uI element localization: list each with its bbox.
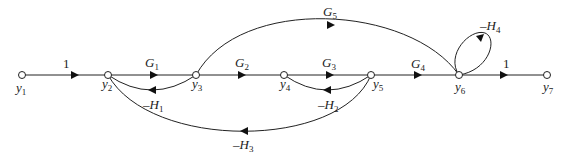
gain-label-g3: G3	[322, 55, 336, 72]
gain-label-minus-h4: –H4	[479, 18, 501, 35]
arrow-icon	[326, 71, 334, 79]
arrow-icon	[476, 34, 484, 42]
gain-label-g5: G5	[323, 4, 337, 21]
gain-label-minus-h2: –H2	[317, 97, 338, 114]
gain-label-g4: G4	[411, 56, 425, 73]
gain-label-1-out: 1	[503, 56, 510, 71]
arrow-icon	[323, 86, 331, 94]
arrow-icon	[240, 127, 248, 135]
node-y7	[544, 72, 551, 79]
arrow-icon	[148, 86, 156, 94]
gain-label-g1: G1	[145, 55, 159, 72]
gain-label-1: 1	[63, 56, 70, 71]
gain-label-minus-h3: –H3	[232, 137, 254, 154]
node-y6	[456, 72, 463, 79]
arrow-icon	[238, 71, 246, 79]
node-label-y5: y5	[371, 76, 384, 93]
signal-flow-graph: y1 y2 y3 y4 y5 y6 y7 1 G1 G2 G3 G4 1 –H1…	[0, 0, 567, 160]
gain-label-g2: G2	[235, 55, 249, 72]
node-label-y1: y1	[14, 80, 26, 97]
node-label-y6: y6	[453, 79, 466, 96]
arrow-icon	[71, 71, 79, 79]
edge-minus-h4-self-loop	[455, 32, 491, 75]
arrow-icon	[500, 71, 508, 79]
node-label-y3: y3	[190, 76, 203, 93]
arrow-icon	[150, 71, 158, 79]
node-label-y7: y7	[541, 79, 554, 96]
arrow-icon	[327, 21, 335, 29]
gain-label-minus-h1: –H1	[142, 97, 163, 114]
node-y1	[19, 72, 26, 79]
